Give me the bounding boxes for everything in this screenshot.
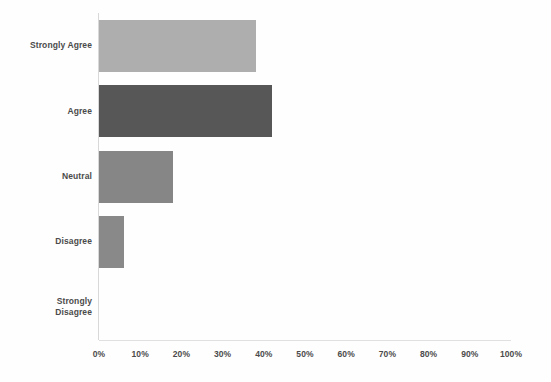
bar-row xyxy=(99,151,511,203)
bar-row xyxy=(99,20,511,72)
value-axis-tick-labels: 0%10%20%30%40%50%60%70%80%90%100% xyxy=(99,349,511,365)
tick-label-60: 60% xyxy=(338,349,355,359)
category-label-agree: Agree xyxy=(7,106,99,117)
plot-area xyxy=(99,13,511,340)
bar-neutral xyxy=(99,151,173,203)
tick-label-90: 90% xyxy=(461,349,478,359)
bar-disagree xyxy=(99,216,124,268)
category-label-strongly-disagree: StronglyDisagree xyxy=(7,296,99,318)
category-label-line: Strongly Agree xyxy=(7,40,92,51)
tick-label-70: 70% xyxy=(379,349,396,359)
tick-label-0: 0% xyxy=(93,349,106,359)
category-label-line: Neutral xyxy=(7,171,92,182)
category-label-disagree: Disagree xyxy=(7,236,99,247)
tick-label-100: 100% xyxy=(500,349,522,359)
bar-row xyxy=(99,281,511,333)
tick-label-40: 40% xyxy=(255,349,272,359)
category-label-strongly-agree: Strongly Agree xyxy=(7,40,99,51)
survey-response-bar-chart: Strongly AgreeAgreeNeutralDisagreeStrong… xyxy=(0,0,551,382)
tick-label-50: 50% xyxy=(296,349,313,359)
bar-agree xyxy=(99,85,272,137)
bar-strongly-agree xyxy=(99,20,256,72)
category-label-line: Disagree xyxy=(7,236,92,247)
category-label-line: Strongly xyxy=(7,296,92,307)
bar-row xyxy=(99,216,511,268)
value-axis-baseline xyxy=(99,340,511,341)
category-label-line: Agree xyxy=(7,106,92,117)
category-label-neutral: Neutral xyxy=(7,171,99,182)
tick-label-10: 10% xyxy=(132,349,149,359)
tick-label-30: 30% xyxy=(214,349,231,359)
category-axis-labels: Strongly AgreeAgreeNeutralDisagreeStrong… xyxy=(0,13,99,340)
tick-label-20: 20% xyxy=(173,349,190,359)
category-label-line: Disagree xyxy=(7,307,92,318)
bar-row xyxy=(99,85,511,137)
tick-label-80: 80% xyxy=(420,349,437,359)
